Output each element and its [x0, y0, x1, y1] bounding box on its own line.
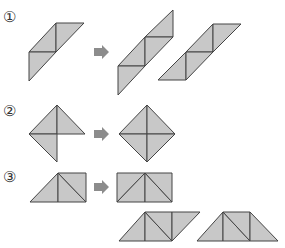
right-arrow-icon [94, 45, 109, 59]
section-3-result-parallelogram [119, 212, 200, 241]
section-3-initial-shape [30, 173, 86, 202]
section-1-result-shape-a [118, 10, 173, 95]
triangle-puzzle-diagram [0, 0, 285, 248]
section-3-result-trapezoid [197, 212, 278, 241]
section-2-result-diamond [119, 105, 175, 162]
right-arrow-icon [94, 127, 109, 141]
section-1-initial-shape [29, 23, 84, 81]
right-arrow-icon [94, 180, 109, 194]
section-3-result-rectangle [117, 173, 172, 202]
section-2-initial-shape [29, 105, 85, 162]
